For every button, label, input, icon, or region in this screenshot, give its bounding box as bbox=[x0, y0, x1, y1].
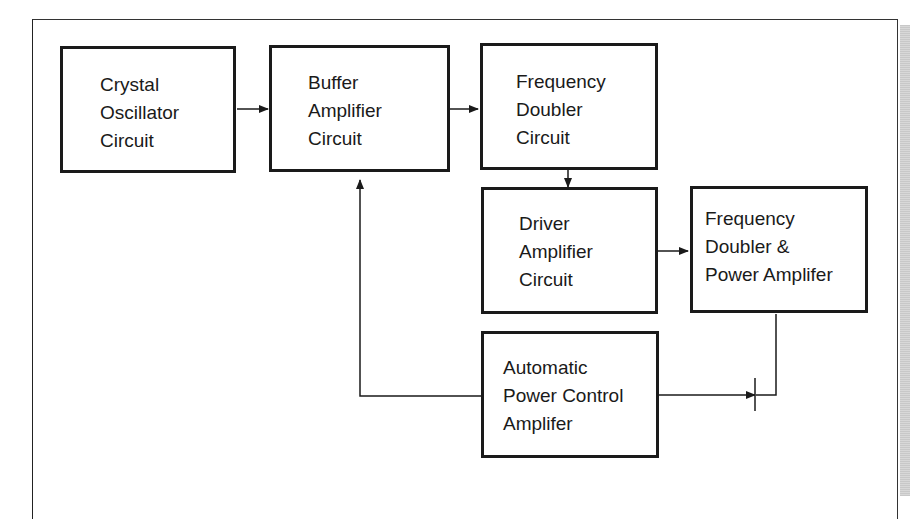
block-frequency-doubler-power-amplifier: Frequency Doubler & Power Amplifer bbox=[690, 186, 868, 313]
block-buffer-amplifier: Buffer Amplifier Circuit bbox=[269, 45, 450, 172]
block-label: Driver Amplifier Circuit bbox=[519, 210, 593, 294]
block-label: Frequency Doubler & Power Amplifer bbox=[705, 205, 833, 289]
block-label: Crystal Oscillator Circuit bbox=[100, 71, 179, 155]
block-label: Frequency Doubler Circuit bbox=[516, 68, 606, 152]
block-crystal-oscillator: Crystal Oscillator Circuit bbox=[60, 46, 236, 173]
block-automatic-power-control: Automatic Power Control Amplifer bbox=[481, 331, 659, 458]
block-label: Automatic Power Control Amplifer bbox=[503, 354, 623, 438]
block-label: Buffer Amplifier Circuit bbox=[308, 69, 382, 153]
page-shadow bbox=[900, 25, 910, 496]
block-frequency-doubler: Frequency Doubler Circuit bbox=[480, 43, 658, 170]
block-driver-amplifier: Driver Amplifier Circuit bbox=[481, 187, 658, 314]
